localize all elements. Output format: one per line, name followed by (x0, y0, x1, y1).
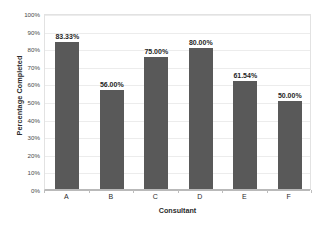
x-axis-tick-label: A (64, 193, 69, 200)
bar-value-label: 75.00% (144, 48, 168, 55)
bar[interactable] (55, 42, 79, 189)
y-axis-tick-label: 20% (28, 151, 40, 158)
plot-area: 83.33%56.00%75.00%80.00%61.54%50.00% (44, 14, 311, 190)
y-axis-tick-label: 70% (28, 63, 40, 70)
y-axis-tick-label: 0% (31, 187, 40, 194)
x-axis-tick-label: B (108, 193, 113, 200)
y-axis-tick-label: 90% (28, 28, 40, 35)
bar-value-label: 83.33% (55, 33, 79, 40)
x-axis-tick-mark (267, 190, 268, 193)
y-axis-tick-label: 50% (28, 99, 40, 106)
y-axis-tick-label: 10% (28, 169, 40, 176)
x-axis-tick-label: E (242, 193, 247, 200)
x-axis-tick-mark (89, 190, 90, 193)
x-axis-tick-mark (311, 190, 312, 193)
bar-value-label: 56.00% (100, 81, 124, 88)
bar[interactable] (100, 90, 124, 189)
y-axis-tick-label: 100% (24, 11, 40, 18)
x-axis-tick-label: C (153, 193, 158, 200)
bar[interactable] (189, 48, 213, 189)
bar-slot: 50.00% (268, 15, 313, 189)
bar[interactable] (278, 101, 302, 189)
bar-series: 83.33%56.00%75.00%80.00%61.54%50.00% (45, 15, 310, 189)
x-axis-tick-mark (133, 190, 134, 193)
bar-value-label: 61.54% (233, 72, 257, 79)
y-axis-tick-label: 40% (28, 116, 40, 123)
bar[interactable] (233, 81, 257, 189)
x-axis-title: Consultant (44, 206, 311, 215)
x-axis-tick-mark (222, 190, 223, 193)
x-axis-tick-labels: ABCDEF (44, 190, 311, 204)
y-axis-tick-label: 80% (28, 46, 40, 53)
y-axis-tick-labels: 0%10%20%30%40%50%60%70%80%90%100% (20, 14, 42, 190)
x-axis-tick-label: F (287, 193, 291, 200)
bar[interactable] (144, 57, 168, 189)
y-axis-tick-label: 30% (28, 134, 40, 141)
bar-slot: 83.33% (45, 15, 90, 189)
bar-slot: 56.00% (90, 15, 135, 189)
bar-value-label: 80.00% (189, 39, 213, 46)
x-axis-tick-mark (44, 190, 45, 193)
y-axis-tick-label: 60% (28, 81, 40, 88)
bar-slot: 75.00% (134, 15, 179, 189)
bar-chart: Percentage Completed 0%10%20%30%40%50%60… (0, 0, 326, 232)
bar-slot: 80.00% (179, 15, 224, 189)
x-axis-tick-label: D (197, 193, 202, 200)
bar-value-label: 50.00% (278, 92, 302, 99)
x-axis-tick-mark (178, 190, 179, 193)
bar-slot: 61.54% (223, 15, 268, 189)
